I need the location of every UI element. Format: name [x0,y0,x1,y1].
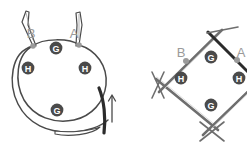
direction-arrow [109,95,116,122]
stitch-marker-label: H [82,64,89,74]
stitch-marker: H [175,72,188,85]
stitch-marker: H [79,62,92,75]
stitch-marker: G [51,104,64,117]
stitch-marker-label: G [207,101,214,111]
stitch-marker: H [233,72,246,85]
endpoint-label-a: A [237,45,246,60]
stitch-marker-label: G [53,106,60,116]
marker-dot-a [76,42,82,48]
stitch-marker-label: H [236,74,243,84]
figure-root: B A G H H G [0,0,247,150]
stitch-marker: G [50,42,63,55]
stitch-marker-label: G [207,53,214,63]
dpn-square-diagram: B A G H H G [152,27,247,141]
needle-cross-top [207,27,238,33]
needle-cord-outer [12,46,108,132]
stitch-marker: H [22,62,35,75]
circular-needle-diagram: B A G H H G [12,11,115,135]
endpoint-label-b: B [27,26,36,41]
marker-dot-b [30,43,36,49]
stitch-marker: G [205,99,218,112]
knitting-diagram-svg: B A G H H G [0,0,247,150]
stitch-marker: G [205,51,218,64]
stitch-marker-label: H [178,74,185,84]
endpoint-label-b: B [177,45,186,60]
endpoint-label-a: A [70,26,79,41]
stitch-marker-label: H [25,64,32,74]
stitch-marker-label: G [52,44,59,54]
